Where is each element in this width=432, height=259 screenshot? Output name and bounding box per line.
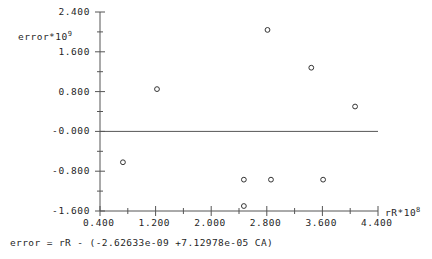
x-axis-tick-label: 0.400 (83, 217, 115, 228)
y-axis-tick-label: -1.600 (52, 205, 90, 216)
data-point (241, 204, 246, 209)
x-axis-title-exponent: 8 (416, 206, 420, 214)
x-axis-tick-label: 2.800 (250, 217, 282, 228)
equation-caption: error = rR - (-2.62633e-09 +7.12978e-05 … (10, 237, 273, 248)
data-points-group (121, 28, 358, 209)
data-point (121, 160, 126, 165)
x-axis-tick-label: 4.400 (361, 217, 393, 228)
y-axis-title-exponent: 9 (68, 30, 72, 38)
y-axis-tick-label: 1.600 (58, 46, 90, 57)
y-axis-tick-label: 2.400 (58, 6, 90, 17)
data-point (241, 177, 246, 182)
y-axis-tick-label: -0.800 (52, 165, 90, 176)
x-axis-tick-label: 3.600 (305, 217, 337, 228)
data-point (321, 177, 326, 182)
data-point (269, 177, 274, 182)
y-axis-tick-label: 0.800 (58, 86, 90, 97)
data-point (265, 28, 270, 33)
x-axis-tick-label: 1.200 (139, 217, 171, 228)
y-axis-title: error*109 (18, 30, 72, 42)
x-axis-title-base: rR*10 (385, 207, 416, 218)
data-point (353, 104, 358, 109)
data-point (155, 87, 160, 92)
y-axis-title-base: error*10 (18, 31, 68, 42)
y-axis-tick-label: -0.000 (52, 125, 90, 136)
x-axis-tick-label: 2.000 (194, 217, 226, 228)
data-point (309, 65, 314, 70)
x-axis-title: rR*108 (385, 206, 420, 218)
axes-group (95, 12, 378, 216)
